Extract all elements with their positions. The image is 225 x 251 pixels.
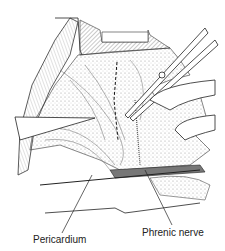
pericardium-leader — [62, 175, 92, 233]
label-phrenic-nerve: Phrenic nerve — [142, 227, 204, 238]
label-pericardium: Pericardium — [33, 234, 86, 245]
surgical-illustration — [0, 0, 225, 251]
